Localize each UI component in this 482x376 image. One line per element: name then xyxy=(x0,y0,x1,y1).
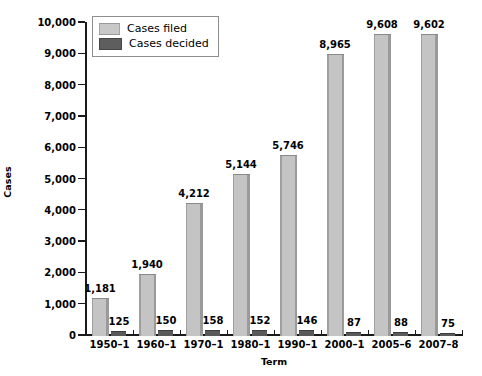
y-axis-tick-label: 5,000 xyxy=(2,173,76,184)
y-axis-tick-label: 7,000 xyxy=(2,110,76,121)
y-axis-tick xyxy=(78,53,85,54)
bar-value-label-cases-decided: 125 xyxy=(109,316,130,327)
x-axis-tick xyxy=(462,330,463,336)
y-axis-tick-label: 9,000 xyxy=(2,48,76,59)
bar-cases-filed xyxy=(233,174,250,336)
bar-cases-decided xyxy=(252,330,267,336)
chart-legend: Cases filed Cases decided xyxy=(92,16,219,57)
y-axis-tick-label: 6,000 xyxy=(2,142,76,153)
bar-chart: Cases 01,0002,0003,0004,0005,0006,0007,0… xyxy=(0,0,482,376)
y-axis-tick-label: 2,000 xyxy=(2,267,76,278)
bar-cases-filed xyxy=(139,274,156,336)
y-axis-tick xyxy=(78,147,85,148)
bar-value-label-cases-filed: 5,746 xyxy=(272,140,304,151)
bar-cases-filed xyxy=(327,54,344,336)
x-axis-tick xyxy=(133,330,134,336)
bar-cases-filed xyxy=(92,298,109,336)
x-axis-tick xyxy=(227,330,228,336)
y-axis-tick-label: 10,000 xyxy=(2,17,76,28)
bar-value-label-cases-decided: 150 xyxy=(156,315,177,326)
x-axis-tick xyxy=(321,330,322,336)
bar-value-label-cases-filed: 5,144 xyxy=(225,159,257,170)
bar-cases-filed xyxy=(421,34,438,336)
bar-cases-decided xyxy=(205,330,220,336)
x-axis-tick xyxy=(368,330,369,336)
bar-value-label-cases-decided: 87 xyxy=(347,317,361,328)
bar-cases-filed xyxy=(186,203,203,336)
x-axis-title: Term xyxy=(86,356,462,367)
legend-item-cases-filed: Cases filed xyxy=(99,21,209,36)
y-axis-tick-label: 1,000 xyxy=(2,298,76,309)
y-axis-tick-label: 0 xyxy=(2,330,76,341)
y-axis-tick xyxy=(78,334,85,335)
bar-cases-decided xyxy=(393,332,408,336)
x-axis-tick xyxy=(274,330,275,336)
legend-label-cases-decided: Cases decided xyxy=(129,37,209,50)
y-axis-tick xyxy=(78,209,85,210)
legend-item-cases-decided: Cases decided xyxy=(99,36,209,51)
bar-value-label-cases-decided: 152 xyxy=(250,315,271,326)
y-axis-tick-label: 4,000 xyxy=(2,204,76,215)
bar-value-label-cases-filed: 9,608 xyxy=(366,19,398,30)
legend-swatch-filed-icon xyxy=(99,23,120,35)
bar-value-label-cases-filed: 1,181 xyxy=(84,283,116,294)
bar-value-label-cases-decided: 146 xyxy=(297,315,318,326)
y-axis-tick xyxy=(78,115,85,116)
bar-cases-filed xyxy=(374,34,391,336)
y-axis-tick-labels: 01,0002,0003,0004,0005,0006,0007,0008,00… xyxy=(0,0,76,376)
y-axis-tick xyxy=(78,21,85,22)
bar-value-label-cases-filed: 4,212 xyxy=(178,188,210,199)
bar-value-label-cases-decided: 158 xyxy=(203,315,224,326)
legend-swatch-decided-icon xyxy=(99,38,122,50)
y-axis-tick xyxy=(78,303,85,304)
y-axis-tick xyxy=(78,84,85,85)
y-axis-tick xyxy=(78,240,85,241)
bar-value-label-cases-decided: 75 xyxy=(441,318,455,329)
y-axis-tick xyxy=(78,272,85,273)
bar-cases-decided xyxy=(346,332,361,336)
legend-label-cases-filed: Cases filed xyxy=(127,22,187,35)
bar-cases-decided xyxy=(440,333,455,337)
y-axis-tick xyxy=(78,178,85,179)
bar-cases-decided xyxy=(111,331,126,336)
plot-area: 1,1811251,9401504,2121585,1441525,746146… xyxy=(86,22,462,335)
bar-value-label-cases-filed: 9,602 xyxy=(413,19,445,30)
bar-value-label-cases-filed: 1,940 xyxy=(131,259,163,270)
bar-cases-filed xyxy=(280,155,297,336)
bar-value-label-cases-filed: 8,965 xyxy=(319,39,351,50)
x-axis-tick xyxy=(415,330,416,336)
x-axis-tick-label: 2007–8 xyxy=(408,339,470,350)
x-axis-tick xyxy=(86,330,87,336)
bar-cases-decided xyxy=(158,330,173,336)
y-axis-tick-label: 8,000 xyxy=(2,79,76,90)
x-axis-tick xyxy=(180,330,181,336)
y-axis-tick-label: 3,000 xyxy=(2,236,76,247)
bar-value-label-cases-decided: 88 xyxy=(394,317,408,328)
bar-cases-decided xyxy=(299,330,314,336)
